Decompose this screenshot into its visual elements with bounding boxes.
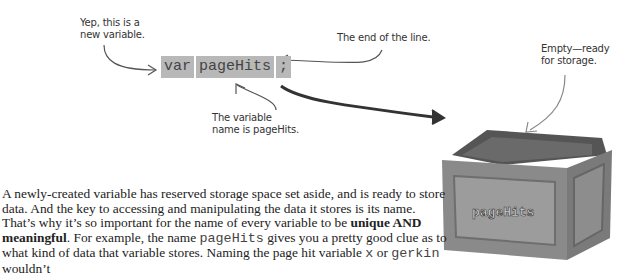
inline-code: gerkin: [391, 246, 439, 261]
note-line: Empty—ready: [541, 43, 609, 55]
note-line: name is pageHits.: [212, 124, 299, 136]
inline-code: pageHits: [199, 231, 263, 246]
note-new-variable: Yep, this is a new variable.: [80, 17, 145, 41]
note-variable-name: The variable name is pageHits.: [212, 112, 299, 136]
code-identifier: pageHits: [196, 56, 274, 78]
code-terminator: ;: [276, 56, 291, 78]
crate-illustration: pageHits: [442, 110, 622, 270]
crate-label: pageHits: [472, 205, 535, 220]
code-statement: var pageHits ;: [161, 56, 291, 78]
note-line: The variable: [212, 112, 299, 124]
note-end-of-line: The end of the line.: [337, 32, 430, 44]
text-run: or: [373, 245, 391, 260]
note-line: for storage.: [541, 55, 609, 67]
text-run: . For example, the name: [67, 230, 200, 245]
code-keyword: var: [161, 56, 194, 78]
note-line: new variable.: [80, 29, 145, 41]
note-line: Yep, this is a: [80, 17, 145, 29]
text-run: wouldn’t: [2, 261, 50, 275]
body-paragraph: A newly-created variable has reserved st…: [2, 187, 452, 275]
note-empty-ready: Empty—ready for storage.: [541, 43, 609, 67]
